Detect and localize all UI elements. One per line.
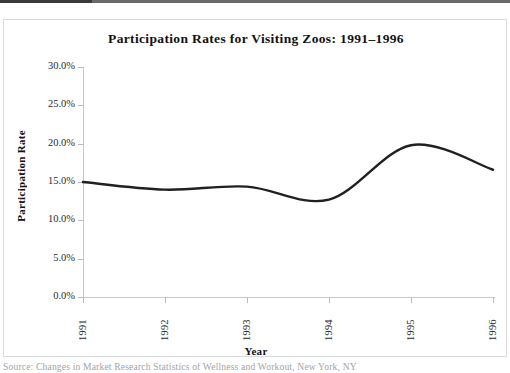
series-line-chart [4,20,508,358]
source-caption: Source: Changes in Market Research Stati… [3,363,507,373]
figure-frame: Participation Rates for Visiting Zoos: 1… [3,19,507,357]
series-line-path [83,145,493,202]
source-caption-text: Source: Changes in Market Research Stati… [3,363,507,372]
page-top-margin [0,3,510,19]
